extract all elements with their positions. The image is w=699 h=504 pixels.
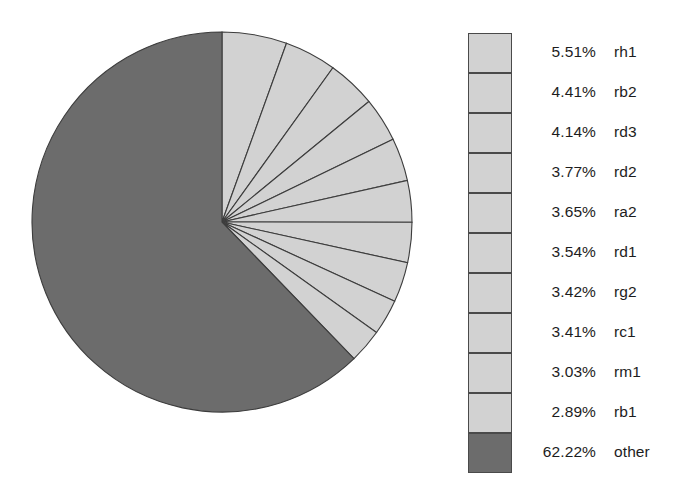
legend-series-label: other xyxy=(598,443,678,461)
legend-percent-value: 2.89% xyxy=(512,403,598,421)
legend-color-swatch xyxy=(468,73,512,113)
legend-row[interactable]: 3.42%rg2 xyxy=(468,272,678,312)
legend-color-swatch xyxy=(468,193,512,233)
legend-percent-value: 5.51% xyxy=(512,43,598,61)
legend-series-label: rd3 xyxy=(598,123,678,141)
legend-percent-value: 3.03% xyxy=(512,363,598,381)
legend-row[interactable]: 3.03%rm1 xyxy=(468,352,678,392)
legend-series-label: rb1 xyxy=(598,403,678,421)
pie-chart-svg xyxy=(30,30,415,415)
legend-series-label: rm1 xyxy=(598,363,678,381)
legend-percent-value: 62.22% xyxy=(512,443,598,461)
legend-series-label: rd2 xyxy=(598,163,678,181)
legend-color-swatch xyxy=(468,33,512,73)
legend-row[interactable]: 4.41%rb2 xyxy=(468,72,678,112)
legend-color-swatch xyxy=(468,153,512,193)
legend-row[interactable]: 3.41%rc1 xyxy=(468,312,678,352)
legend-row[interactable]: 5.51%rh1 xyxy=(468,32,678,72)
legend-row[interactable]: 3.65%ra2 xyxy=(468,192,678,232)
legend-color-swatch xyxy=(468,113,512,153)
legend-percent-value: 4.41% xyxy=(512,83,598,101)
legend-color-swatch xyxy=(468,313,512,353)
legend-row[interactable]: 4.14%rd3 xyxy=(468,112,678,152)
legend-series-label: rd1 xyxy=(598,243,678,261)
legend-series-label: rc1 xyxy=(598,323,678,341)
legend-series-label: rh1 xyxy=(598,43,678,61)
legend-row[interactable]: 3.77%rd2 xyxy=(468,152,678,192)
chart-legend: 5.51%rh14.41%rb24.14%rd33.77%rd23.65%ra2… xyxy=(468,32,678,472)
pie-slice-group xyxy=(32,32,412,412)
legend-percent-value: 3.65% xyxy=(512,203,598,221)
legend-series-label: ra2 xyxy=(598,203,678,221)
legend-percent-value: 3.41% xyxy=(512,323,598,341)
legend-percent-value: 4.14% xyxy=(512,123,598,141)
legend-row[interactable]: 3.54%rd1 xyxy=(468,232,678,272)
legend-color-swatch xyxy=(468,233,512,273)
pie-chart-figure: 5.51%rh14.41%rb24.14%rd33.77%rd23.65%ra2… xyxy=(0,0,699,504)
legend-percent-value: 3.54% xyxy=(512,243,598,261)
legend-percent-value: 3.42% xyxy=(512,283,598,301)
legend-series-label: rg2 xyxy=(598,283,678,301)
legend-row[interactable]: 62.22%other xyxy=(468,432,678,472)
legend-color-swatch xyxy=(468,353,512,393)
legend-percent-value: 3.77% xyxy=(512,163,598,181)
pie-chart-plot-area xyxy=(30,30,415,415)
legend-color-swatch xyxy=(468,393,512,433)
legend-color-swatch xyxy=(468,273,512,313)
legend-row[interactable]: 2.89%rb1 xyxy=(468,392,678,432)
legend-series-label: rb2 xyxy=(598,83,678,101)
legend-color-swatch xyxy=(468,433,512,473)
